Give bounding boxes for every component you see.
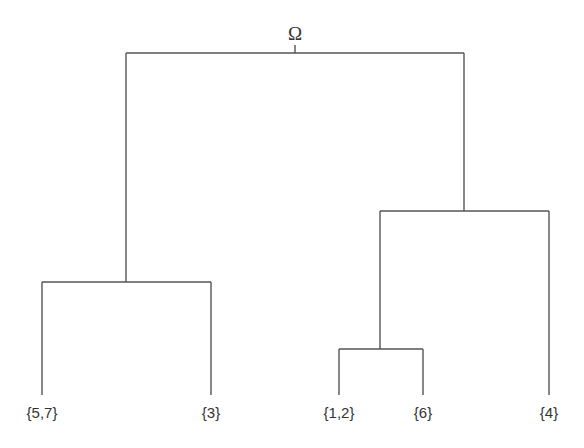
leaf-label-12: {1,2}: [324, 405, 355, 420]
leaf-label-3: {3}: [202, 405, 220, 420]
dendrogram-lines: [0, 0, 584, 448]
leaf-label-57: {5,7}: [27, 405, 58, 420]
root-label: Ω: [288, 24, 302, 43]
leaf-label-4: {4}: [540, 405, 558, 420]
leaf-label-6: {6}: [414, 405, 432, 420]
